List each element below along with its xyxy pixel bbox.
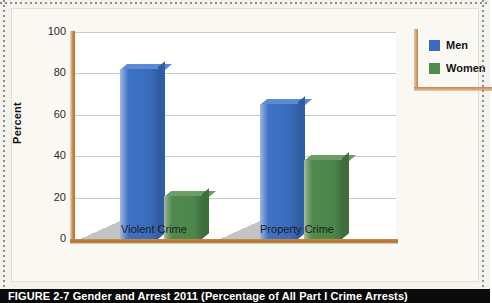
plot-area <box>74 32 396 239</box>
legend-swatch-men-icon <box>429 40 440 51</box>
figure-caption-text: FIGURE 2-7 Gender and Arrest 2011 (Perce… <box>8 290 408 302</box>
x-tick-property-crime: Property Crime <box>217 223 377 235</box>
y-tick-100: 100 <box>32 25 66 37</box>
y-axis-title: Percent <box>11 102 23 144</box>
legend-item-women[interactable]: Women <box>429 62 486 74</box>
bar-men-property-crime[interactable] <box>260 104 298 239</box>
legend-label-men: Men <box>446 39 468 51</box>
legend-label-women: Women <box>446 62 486 74</box>
bar-face <box>120 69 158 239</box>
legend-border-vertical <box>414 29 418 91</box>
y-axis-tick-labels: 100 80 60 40 20 0 <box>26 32 66 239</box>
x-axis-spine <box>70 239 398 244</box>
scan-border-top <box>0 2 490 4</box>
bar-group-property-crime <box>242 32 362 239</box>
legend-border-horizontal <box>414 87 492 91</box>
legend-item-men[interactable]: Men <box>429 39 468 51</box>
y-tick-60: 60 <box>32 108 66 120</box>
legend-swatch-women-icon <box>429 63 440 74</box>
chart-legend: Men Women <box>414 29 492 91</box>
scan-border-left <box>3 0 5 290</box>
y-axis-spine <box>70 31 75 242</box>
y-tick-0: 0 <box>32 232 66 244</box>
y-tick-80: 80 <box>32 66 66 78</box>
bar-face <box>260 104 298 239</box>
y-tick-20: 20 <box>32 191 66 203</box>
x-tick-violent-crime: Violent Crime <box>74 223 234 235</box>
scan-border-right <box>482 0 484 290</box>
y-tick-40: 40 <box>32 149 66 161</box>
figure-caption-bar: FIGURE 2-7 Gender and Arrest 2011 (Perce… <box>0 289 490 303</box>
bar-group-violent-crime <box>102 32 222 239</box>
chart-card: Percent 100 80 60 40 20 0 <box>12 9 478 281</box>
bar-men-violent-crime[interactable] <box>120 69 158 239</box>
